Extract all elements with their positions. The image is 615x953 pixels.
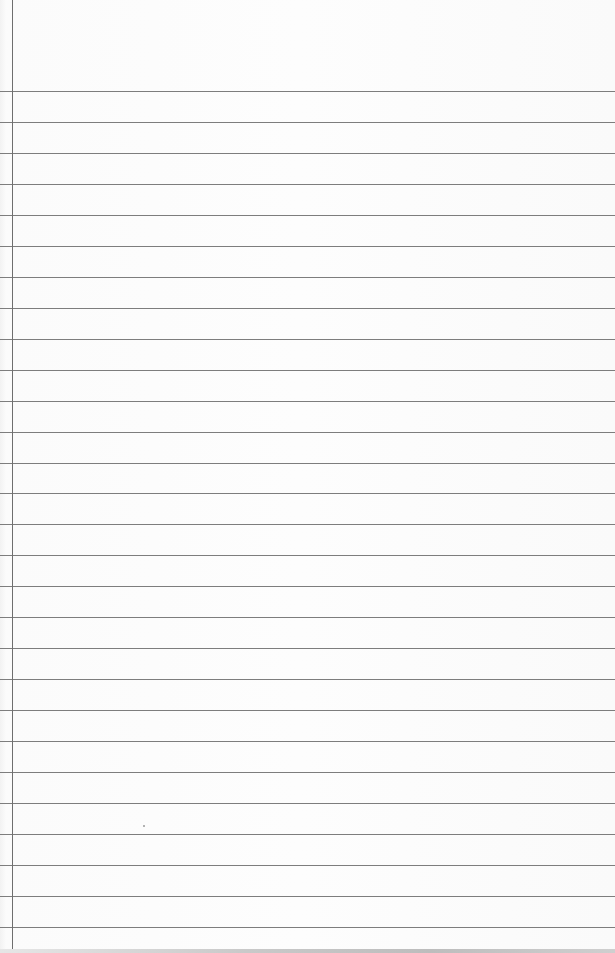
ruled-line bbox=[0, 91, 615, 92]
paper-bottom-edge bbox=[0, 949, 615, 953]
paper-speck bbox=[143, 825, 145, 827]
ruled-line bbox=[0, 401, 615, 402]
ruled-line bbox=[0, 308, 615, 309]
ruled-line bbox=[0, 339, 615, 340]
ruled-line bbox=[0, 865, 615, 866]
ruled-line bbox=[0, 648, 615, 649]
ruled-line bbox=[0, 122, 615, 123]
ruled-line bbox=[0, 927, 615, 928]
ruled-line bbox=[0, 896, 615, 897]
ruled-line bbox=[0, 741, 615, 742]
ruled-line bbox=[0, 432, 615, 433]
lined-paper bbox=[0, 0, 615, 953]
ruled-line bbox=[0, 184, 615, 185]
ruled-line bbox=[0, 679, 615, 680]
ruled-line bbox=[0, 834, 615, 835]
ruled-line bbox=[0, 277, 615, 278]
ruled-line bbox=[0, 493, 615, 494]
ruled-line bbox=[0, 524, 615, 525]
margin-line bbox=[12, 0, 13, 953]
ruled-line bbox=[0, 463, 615, 464]
ruled-line bbox=[0, 555, 615, 556]
ruled-line bbox=[0, 772, 615, 773]
ruled-line bbox=[0, 246, 615, 247]
ruled-line bbox=[0, 370, 615, 371]
ruled-line bbox=[0, 586, 615, 587]
ruled-line bbox=[0, 803, 615, 804]
ruled-line bbox=[0, 710, 615, 711]
ruled-line bbox=[0, 153, 615, 154]
ruled-line bbox=[0, 215, 615, 216]
ruled-line bbox=[0, 617, 615, 618]
